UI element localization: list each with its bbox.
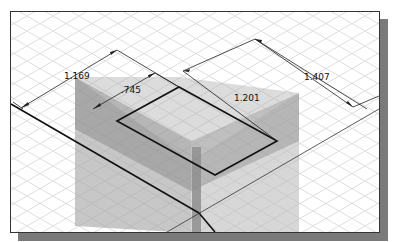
drawing-viewport[interactable]: 1.169 .745 1.201 1.407	[10, 11, 380, 233]
dimension-label-1407[interactable]: 1.407	[304, 72, 330, 82]
dimension-label-1201[interactable]: 1.201	[234, 93, 260, 103]
isometric-drawing[interactable]: 1.169 .745 1.201 1.407	[11, 12, 379, 232]
dimension-label-745[interactable]: .745	[121, 85, 141, 95]
dimension-label-1169[interactable]: 1.169	[64, 71, 90, 81]
